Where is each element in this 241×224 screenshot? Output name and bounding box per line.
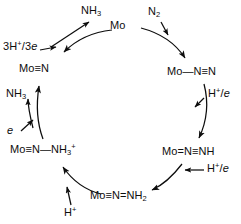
reagent-h-e-upper-in: H+/e: [208, 88, 230, 99]
arrow-mo-n-nh3-to-mo-nitride: [37, 86, 43, 139]
reagent-n2-in: N2: [148, 6, 160, 17]
reagent-h-plus-in: H+: [64, 207, 77, 218]
arrow-e-in: [21, 120, 33, 131]
bond-single-icon: —: [182, 66, 193, 77]
reagent-e-left-in: e: [7, 125, 13, 136]
node-mo-n-nh3-cation: Mo≡N—NH3+: [10, 144, 76, 155]
nitrogen-fixation-cycle-diagram: Mo Mo—N≡N Mo=N≡NH Mo≡N=NH2 Mo≡N—NH3+ Mo≡…: [0, 0, 241, 224]
arrow-mo-to-mo-n2: [141, 28, 185, 58]
arrow-nh3-out-top: [51, 22, 89, 47]
reagent-3h-3e-in: 3H+/3e: [3, 41, 37, 52]
arrow-3h-3e-in: [40, 47, 56, 50]
node-mo-n2: Mo—N≡N: [167, 66, 216, 77]
bond-single-icon: —: [40, 144, 51, 155]
arrow-h-e-upper-in: [195, 98, 204, 107]
reagent-h-e-lower-in: H+/e: [207, 163, 229, 174]
product-nh3-left: NH3: [6, 88, 26, 99]
arrow-mo-n2-to-mo-nnh: [199, 84, 207, 138]
arrow-n2-in: [161, 22, 168, 35]
node-mo-nitride: Mo≡N: [19, 63, 49, 74]
node-mo-nnh: Mo=N≡NH: [162, 146, 214, 157]
node-mo: Mo: [110, 20, 125, 31]
product-nh3-top: NH3: [81, 5, 101, 16]
node-mo-nnh2: Mo≡N=NH2: [90, 190, 147, 201]
arrow-mo-nnh-to-mo-nnh2: [152, 164, 182, 190]
arrow-h-plus-in: [67, 187, 71, 205]
